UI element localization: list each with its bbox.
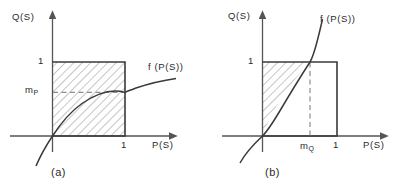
panel-b-caption: (b) bbox=[265, 167, 280, 178]
panel-a-ytick-1: 1 bbox=[38, 56, 43, 66]
panel-b-marker-mq-sub: Q bbox=[309, 145, 314, 152]
panel-b-ytick-1: 1 bbox=[248, 56, 253, 66]
panel-a-xaxis-label: P(S) bbox=[152, 140, 173, 150]
figure-root: Q(S) 1 mP 1 P(S) f (P(S)) (a) Q(S) 1 mQ … bbox=[0, 0, 395, 195]
panel-a-yaxis-label: Q(S) bbox=[12, 12, 34, 22]
panel-b-marker-mq-main: m bbox=[300, 140, 309, 151]
panel-b-curve-label: f (P(S)) bbox=[320, 14, 355, 24]
panel-a-xtick-1: 1 bbox=[121, 140, 126, 150]
panel-a-marker-mp-sub: P bbox=[34, 89, 39, 96]
panel-a-caption: (a) bbox=[51, 167, 66, 178]
panel-a-curve-label: f (P(S)) bbox=[148, 62, 183, 72]
panel-b-xtick-1: 1 bbox=[333, 140, 338, 150]
panel-b-yaxis-label: Q(S) bbox=[228, 11, 250, 21]
panel-b-marker-mq: mQ bbox=[300, 141, 314, 152]
panel-b-xaxis-label: P(S) bbox=[363, 140, 384, 150]
panel-a-marker-mp-main: m bbox=[25, 84, 34, 95]
panel-a-marker-mp: mP bbox=[25, 85, 38, 96]
